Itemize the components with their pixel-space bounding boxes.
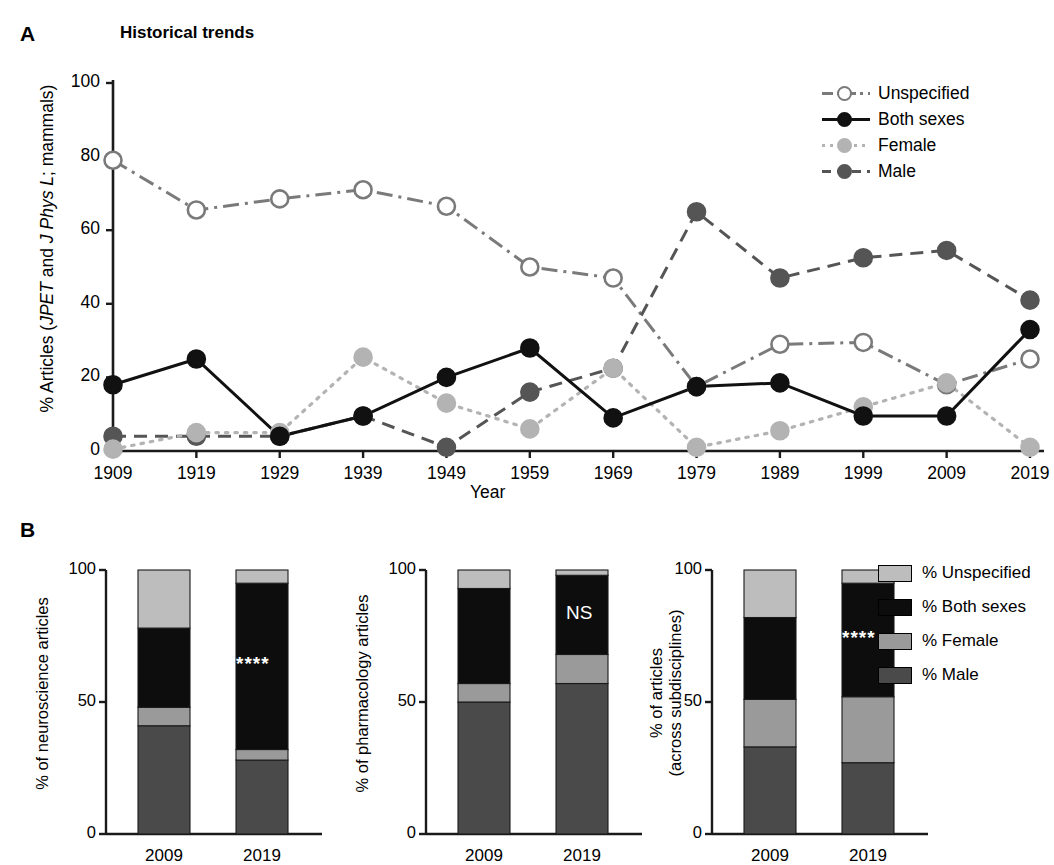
data-point — [855, 408, 872, 425]
bar-segment-female[interactable] — [842, 697, 894, 763]
panel-b-legend-item[interactable]: % Both sexes — [878, 590, 1031, 624]
panel-b-x-tick-label: 2019 — [222, 846, 302, 865]
panel-a-marker-unspecified — [1022, 351, 1039, 368]
panel-a-marker-unspecified — [105, 152, 122, 169]
panel-a-marker-both-sexes — [855, 408, 872, 425]
panel-a-legend-item[interactable]: Both sexes — [822, 106, 969, 132]
panel-a-marker-male — [438, 439, 455, 456]
legend-swatch-unspecified-icon — [878, 565, 912, 582]
panel-a-marker-both-sexes — [688, 378, 705, 395]
bar-segment-unspecified[interactable] — [458, 570, 510, 588]
bar-segment-male[interactable] — [138, 726, 190, 834]
panel-a-legend-label: Unspecified — [878, 83, 969, 104]
panel-a-legend-item[interactable]: Unspecified — [822, 80, 969, 106]
panel-a-marker-unspecified — [688, 378, 705, 395]
panel-a-series-line-unspecified — [113, 160, 1030, 386]
panel-b-x-tick-label: 2009 — [730, 846, 810, 865]
panel-b-legend-label: % Unspecified — [922, 563, 1031, 583]
panel-a-marker-male — [771, 270, 788, 287]
data-point — [105, 152, 122, 169]
data-point — [271, 190, 288, 207]
panel-a-marker-both-sexes — [938, 408, 955, 425]
panel-a-marker-both-sexes — [771, 374, 788, 391]
bar-segment-male[interactable] — [842, 763, 894, 834]
panel-a-x-tick-label: 2009 — [912, 463, 982, 484]
bar-segment-female[interactable] — [556, 654, 608, 683]
panel-a-marker-both-sexes — [271, 428, 288, 445]
panel-b-y-axis-label: % of pharmacology articles — [353, 544, 372, 844]
panel-b-significance-annotation: **** — [236, 653, 270, 675]
data-point — [105, 441, 122, 458]
bar-segment-female[interactable] — [236, 750, 288, 761]
bar-segment-both-sexes[interactable] — [744, 618, 796, 700]
data-point — [1022, 292, 1039, 309]
panel-a-x-tick-label: 1969 — [578, 463, 648, 484]
bar-segment-unspecified[interactable] — [744, 570, 796, 618]
panel-a-x-tick-label: 1989 — [745, 463, 815, 484]
panel-a-marker-female — [271, 424, 288, 441]
panel-a-letter: A — [20, 22, 35, 46]
panel-b-x-tick-label: 2019 — [828, 846, 908, 865]
bar-segment-both-sexes[interactable] — [458, 588, 510, 683]
panel-a-y-tick-label: 20 — [30, 365, 100, 386]
panel-b-y-axis-label: % of articles(across subdisciplines) — [647, 543, 685, 843]
bar-segment-male[interactable] — [556, 684, 608, 834]
data-point — [271, 428, 288, 445]
panel-b-y-axis-label-line: % of articles — [647, 543, 666, 843]
data-point — [1022, 439, 1039, 456]
panel-a-marker-male — [1022, 292, 1039, 309]
panel-b-chart-neuroscience: 05010020092019% of neuroscience articles… — [0, 534, 330, 858]
panel-a-marker-unspecified — [855, 334, 872, 351]
bar-segment-both-sexes[interactable] — [138, 628, 190, 707]
panel-a-marker-female — [105, 441, 122, 458]
legend-swatch-both-sexes-icon — [878, 599, 912, 616]
data-point — [605, 270, 622, 287]
panel-a-marker-unspecified — [271, 190, 288, 207]
bar-segment-male[interactable] — [744, 747, 796, 834]
panel-a-marker-male — [188, 428, 205, 445]
panel-a-marker-female — [188, 424, 205, 441]
data-point — [355, 408, 372, 425]
panel-b-legend-item[interactable]: % Unspecified — [878, 556, 1031, 590]
panel-a-marker-both-sexes — [355, 408, 372, 425]
panel-a-marker-female — [855, 398, 872, 415]
bar-segment-male[interactable] — [458, 702, 510, 834]
panel-a-legend-item[interactable]: Male — [822, 158, 969, 184]
bar-segment-unspecified[interactable] — [138, 570, 190, 628]
panel-a-x-tick-label: 1919 — [161, 463, 231, 484]
bar-segment-male[interactable] — [236, 760, 288, 834]
panel-a-marker-male — [271, 428, 288, 445]
bar-segment-unspecified[interactable] — [236, 570, 288, 583]
panel-a-marker-male — [605, 360, 622, 377]
legend-symbol-unspecified-icon — [822, 82, 870, 104]
panel-a-marker-female — [771, 422, 788, 439]
data-point — [771, 374, 788, 391]
panel-a-marker-male — [938, 242, 955, 259]
panel-a-marker-unspecified — [355, 181, 372, 198]
panel-a-series-line-male — [113, 212, 1030, 447]
bar-segment-female[interactable] — [744, 699, 796, 747]
panel-b-chart-pharmacology: 05010020092019% of pharmacology articles… — [320, 534, 650, 858]
panel-b-legend-item[interactable]: % Female — [878, 624, 1031, 658]
panel-b-y-axis-label-line: % of neuroscience articles — [33, 544, 52, 844]
panel-b-legend-label: % Male — [922, 665, 979, 685]
panel-b-legend-item[interactable]: % Male — [878, 658, 1031, 692]
bar-segment-female[interactable] — [458, 684, 510, 702]
panel-a-legend-item[interactable]: Female — [822, 132, 969, 158]
data-point — [521, 384, 538, 401]
data-point — [605, 360, 622, 377]
data-point — [855, 249, 872, 266]
data-point — [188, 428, 205, 445]
panel-b-legend: % Unspecified% Both sexes% Female% Male — [878, 556, 1031, 692]
panel-b-legend-label: % Female — [922, 631, 999, 651]
panel-a-line-chart — [0, 0, 1049, 510]
bar-segment-female[interactable] — [138, 707, 190, 725]
panel-a-marker-unspecified — [188, 201, 205, 218]
legend-symbol-male-icon — [822, 160, 870, 182]
panel-a-x-tick-label: 1999 — [828, 463, 898, 484]
data-point — [605, 360, 622, 377]
data-point — [1022, 321, 1039, 338]
bar-segment-unspecified[interactable] — [556, 570, 608, 575]
data-point — [938, 408, 955, 425]
data-point — [688, 203, 705, 220]
